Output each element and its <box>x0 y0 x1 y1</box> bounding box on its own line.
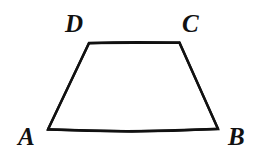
vertex-label-c: C <box>182 11 199 36</box>
edge-dc-top <box>89 42 180 43</box>
edge-ad-left-leg <box>48 43 89 129</box>
trapezoid-drawing <box>0 0 258 164</box>
geometry-figure: A B C D <box>0 0 258 164</box>
vertex-label-d: D <box>65 11 83 36</box>
trapezoid-outline-path <box>48 43 218 132</box>
vertex-label-b: B <box>228 124 245 149</box>
vertex-label-a: A <box>18 124 35 149</box>
edge-cb-right-leg <box>180 43 219 129</box>
